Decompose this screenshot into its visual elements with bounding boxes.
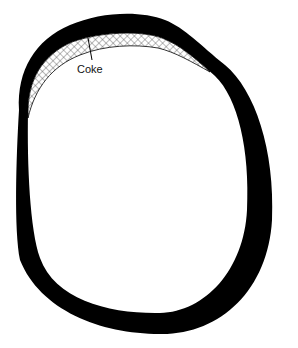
tube-cross-section-diagram: Coke [0,0,298,348]
coke-label: Coke [77,63,103,75]
